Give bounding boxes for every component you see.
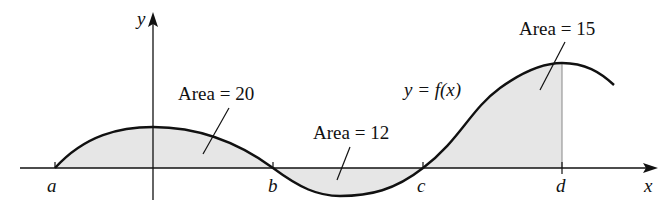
curve-label: y = f(x) <box>404 79 461 101</box>
x-axis-label: x <box>644 175 652 197</box>
point-d-label: d <box>556 175 566 197</box>
area-label-2: Area = 12 <box>313 122 389 144</box>
area-label-3: Area = 15 <box>519 18 595 40</box>
point-c-label: c <box>417 175 425 197</box>
area-label-1: Area = 20 <box>178 83 254 105</box>
y-axis-label: y <box>137 8 145 30</box>
point-a-label: a <box>47 175 57 197</box>
point-b-label: b <box>268 175 278 197</box>
